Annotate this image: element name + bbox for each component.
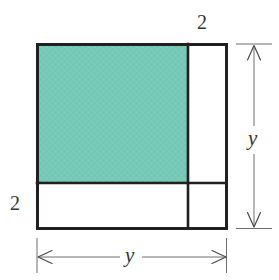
- shaded-region: [38, 45, 188, 183]
- label-bottom-dimension: y: [125, 245, 134, 266]
- geometry-figure: 2 2 y y: [0, 0, 279, 280]
- label-bottom-strip-height: 2: [10, 193, 20, 213]
- label-right-dimension: y: [248, 128, 257, 149]
- figure-canvas: [0, 0, 279, 280]
- label-top-strip-width: 2: [197, 12, 207, 32]
